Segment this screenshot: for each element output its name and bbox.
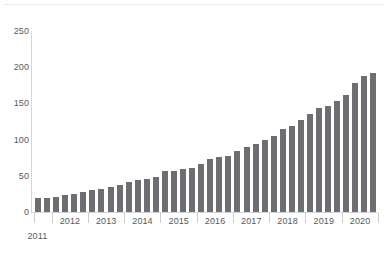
x-group-tick xyxy=(52,213,53,223)
bar xyxy=(271,136,277,212)
x-group-label: 2019 xyxy=(314,216,334,227)
bar xyxy=(153,177,159,212)
y-tick: 200 xyxy=(0,62,29,72)
y-tick-label: 150 xyxy=(3,98,29,108)
x-group-label: 2020 xyxy=(350,216,370,227)
bar xyxy=(44,198,50,212)
bar xyxy=(361,76,367,212)
x-group-tick xyxy=(160,213,161,223)
bar xyxy=(298,120,304,212)
x-group-tick xyxy=(88,213,89,223)
y-tick-label: 100 xyxy=(3,135,29,145)
bar xyxy=(253,144,259,212)
bar xyxy=(162,171,168,212)
bar xyxy=(352,83,358,212)
bar-chart: 050100150200250 201120122013201420152016… xyxy=(0,0,388,254)
x-group-label: 2013 xyxy=(96,216,116,227)
bar xyxy=(126,182,132,212)
bar xyxy=(198,164,204,212)
x-group-label: 2015 xyxy=(169,216,189,227)
bar xyxy=(80,192,86,212)
bar xyxy=(244,147,250,212)
bar xyxy=(307,114,313,212)
bar xyxy=(62,195,68,212)
bar xyxy=(89,190,95,212)
y-tick: 150 xyxy=(0,98,29,108)
x-group-label: 2011 xyxy=(28,231,48,242)
bar xyxy=(234,151,240,212)
x-group-label: 2014 xyxy=(132,216,152,227)
bar xyxy=(108,187,114,212)
plot-area: 050100150200250 201120122013201420152016… xyxy=(0,0,388,254)
bar xyxy=(370,73,376,212)
bar xyxy=(71,194,77,212)
y-tick-label: 0 xyxy=(3,207,29,217)
x-group-label: 2017 xyxy=(241,216,261,227)
y-tick: 50 xyxy=(0,171,29,181)
x-group-tick xyxy=(124,213,125,223)
bar xyxy=(117,185,123,212)
bar xyxy=(53,197,59,212)
y-tick-label: 250 xyxy=(3,26,29,36)
x-group-label: 2016 xyxy=(205,216,225,227)
bar xyxy=(98,189,104,212)
bar xyxy=(262,140,268,212)
bar xyxy=(334,101,340,212)
y-axis-line xyxy=(31,31,32,213)
bar xyxy=(325,106,331,212)
bar xyxy=(180,169,186,212)
x-group-tick xyxy=(378,213,379,223)
bar xyxy=(343,95,349,212)
bar xyxy=(35,198,41,212)
bar xyxy=(135,180,141,212)
bar xyxy=(207,159,213,212)
bar xyxy=(216,157,222,212)
x-group-tick xyxy=(233,213,234,223)
x-group-tick xyxy=(269,213,270,223)
bar xyxy=(225,156,231,212)
bar xyxy=(171,171,177,212)
x-group-tick xyxy=(305,213,306,223)
x-group-label: 2018 xyxy=(277,216,297,227)
bar xyxy=(189,168,195,212)
bar xyxy=(280,129,286,212)
bar xyxy=(316,108,322,212)
bar xyxy=(289,126,295,212)
x-axis-line xyxy=(31,212,378,213)
y-tick: 100 xyxy=(0,135,29,145)
x-group-tick xyxy=(34,213,35,223)
x-group-tick xyxy=(197,213,198,223)
x-group-tick xyxy=(342,213,343,223)
y-tick-label: 200 xyxy=(3,62,29,72)
bar xyxy=(144,179,150,212)
y-tick-label: 50 xyxy=(3,171,29,181)
x-group-label: 2012 xyxy=(60,216,80,227)
y-tick: 0 xyxy=(0,207,29,217)
y-tick: 250 xyxy=(0,26,29,36)
